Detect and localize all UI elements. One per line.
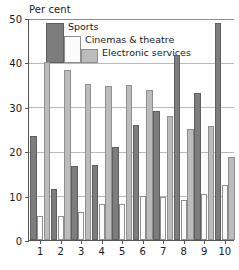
bar	[99, 204, 105, 240]
x-tick-mark	[40, 240, 41, 244]
bar	[160, 197, 166, 240]
bar	[44, 62, 50, 240]
y-tick-label: 20	[9, 147, 22, 158]
x-tick-label: 5	[119, 246, 125, 257]
y-tick-mark	[25, 197, 29, 198]
x-tick-mark	[204, 240, 205, 244]
bar	[71, 166, 77, 240]
bar	[78, 212, 84, 240]
bar	[215, 23, 221, 240]
x-tick-label: 9	[201, 246, 207, 257]
x-tick-mark	[61, 240, 62, 244]
electronic-swatch	[81, 49, 98, 63]
x-tick-label: 3	[78, 246, 84, 257]
legend-label-cinemas: Cinemas & theatre	[85, 35, 174, 44]
x-tick-mark	[163, 240, 164, 244]
x-tick-mark	[143, 240, 144, 244]
bar	[174, 55, 180, 240]
x-tick-label: 10	[218, 246, 231, 257]
x-tick-label: 1	[37, 246, 43, 257]
bar	[187, 129, 193, 240]
bar	[92, 165, 98, 240]
bar	[146, 90, 152, 240]
bar	[133, 125, 139, 240]
x-tick-label: 4	[99, 246, 105, 257]
bar	[64, 70, 70, 240]
x-tick-mark	[225, 240, 226, 244]
y-tick-label: 40	[9, 58, 22, 69]
bar	[37, 216, 43, 240]
y-tick-mark	[25, 63, 29, 64]
bar	[85, 84, 91, 240]
bar	[222, 185, 228, 241]
bar-group	[215, 19, 236, 240]
bar	[58, 216, 64, 240]
legend-label-sports: Sports	[68, 22, 98, 31]
bar	[194, 93, 200, 240]
y-tick-mark	[25, 241, 29, 242]
x-tick-mark	[122, 240, 123, 244]
bar	[140, 196, 146, 240]
cinemas-swatch	[64, 36, 81, 63]
bar	[167, 116, 173, 240]
x-tick-label: 8	[181, 246, 187, 257]
x-tick-label: 7	[160, 246, 166, 257]
bar	[119, 204, 125, 240]
y-tick-label: 30	[9, 102, 22, 113]
y-tick-label: 0	[16, 236, 22, 247]
bar	[208, 126, 214, 240]
bar	[51, 189, 57, 240]
bar	[126, 85, 132, 240]
bar-group	[194, 19, 215, 240]
bar	[181, 200, 187, 240]
y-axis-title: Per cent	[29, 4, 71, 15]
x-tick-label: 2	[58, 246, 64, 257]
sports-swatch	[46, 23, 64, 63]
bar	[112, 147, 118, 240]
y-tick-label: 50	[9, 14, 22, 25]
x-tick-mark	[102, 240, 103, 244]
bar-chart: Per cent 01020304050 12345678910 Sports …	[0, 0, 239, 270]
bar	[30, 136, 36, 240]
y-tick-mark	[25, 19, 29, 20]
bar	[105, 86, 111, 241]
y-tick-label: 10	[9, 191, 22, 202]
y-tick-group: 0	[29, 241, 30, 242]
x-tick-mark	[81, 240, 82, 244]
bar	[228, 157, 234, 240]
x-tick-label: 6	[140, 246, 146, 257]
y-tick-mark	[25, 152, 29, 153]
bar	[201, 194, 207, 240]
x-tick-mark	[184, 240, 185, 244]
y-tick-mark	[25, 108, 29, 109]
bar	[153, 111, 159, 240]
